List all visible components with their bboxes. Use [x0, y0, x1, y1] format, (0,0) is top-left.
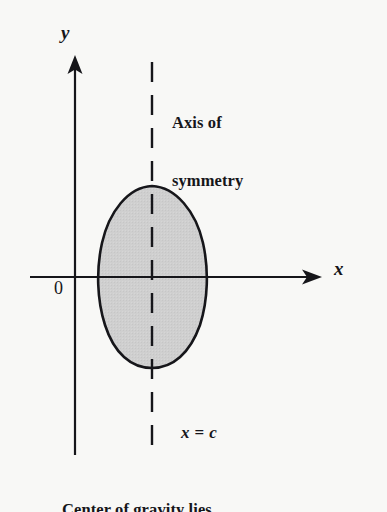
figure-container: y x 0 Axis of symmetry x=c Center of gra…	[0, 0, 387, 512]
caption-line-1: Center of gravity lies	[62, 500, 232, 512]
axis-of-symmetry-line-2: symmetry	[172, 171, 243, 190]
axis-of-symmetry-callout: Axis of symmetry	[172, 74, 243, 230]
figure-caption: Center of gravity lies on the axis of sy…	[62, 461, 232, 512]
origin-label: 0	[54, 278, 63, 299]
equation-x-equals-c: x=c	[164, 403, 217, 463]
equation-constant-c: c	[209, 423, 217, 442]
y-axis-label: y	[61, 22, 69, 44]
equation-equals-sign: =	[195, 423, 205, 442]
axis-of-symmetry-line-1: Axis of	[172, 113, 243, 132]
x-axis-label: x	[334, 258, 344, 280]
equation-variable-x: x	[181, 423, 190, 442]
